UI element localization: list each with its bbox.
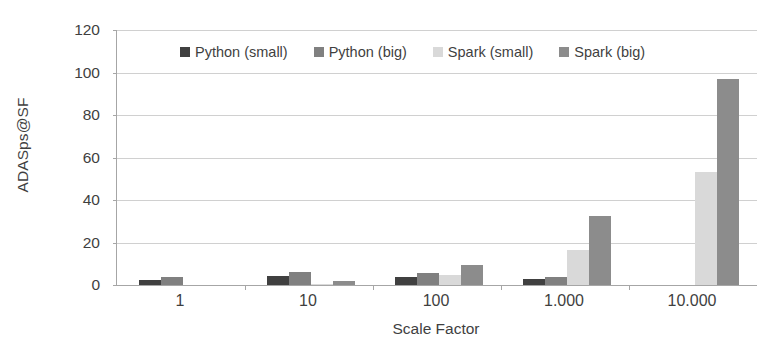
legend-swatch-icon: [559, 47, 569, 57]
y-axis-tick-label: 120: [74, 21, 100, 39]
y-axis-tick-mark: [113, 73, 117, 74]
x-axis-tick-mark: [373, 285, 374, 290]
y-axis-tick-labels: 020406080100120: [46, 22, 108, 290]
bar: [461, 265, 483, 285]
bar: [289, 272, 311, 285]
x-axis-tick-label: 1.000: [544, 292, 584, 310]
y-axis-tick-mark: [113, 285, 117, 286]
bar: [311, 284, 333, 285]
legend-item[interactable]: Python (small): [180, 44, 288, 60]
bar: [333, 281, 355, 285]
y-axis-tick-label: 80: [83, 106, 100, 124]
bar: [523, 279, 545, 285]
x-axis-tick-labels: 1101001.00010.000: [116, 292, 756, 316]
bar: [545, 277, 567, 286]
bar: [161, 277, 183, 286]
bar-group: [501, 30, 629, 285]
y-axis-tick-mark: [113, 30, 117, 31]
y-axis-title-label: ADASps@SF: [14, 97, 32, 192]
x-axis-tick-label: 10: [299, 292, 317, 310]
bar: [139, 280, 161, 285]
legend-item[interactable]: Spark (big): [559, 44, 645, 60]
bar: [395, 277, 417, 286]
bar: [267, 276, 289, 285]
bar-group: [629, 30, 757, 285]
x-axis-tick-label: 100: [423, 292, 450, 310]
bar-group: [245, 30, 373, 285]
bar: [567, 250, 589, 285]
x-axis-tick-mark: [245, 285, 246, 290]
bar-group: [117, 30, 245, 285]
y-axis-title: ADASps@SF: [0, 0, 46, 290]
x-axis-tick-mark: [629, 285, 630, 290]
y-axis-tick-label: 40: [83, 191, 100, 209]
legend-swatch-icon: [433, 47, 443, 57]
y-axis-tick-label: 20: [83, 234, 100, 252]
x-axis-tick-mark: [501, 285, 502, 290]
legend-item[interactable]: Spark (small): [433, 44, 533, 60]
bars-layer: [117, 30, 757, 285]
y-axis-tick-label: 0: [91, 276, 100, 294]
y-axis-tick-mark: [113, 200, 117, 201]
x-axis-tick-label: 1: [176, 292, 185, 310]
x-axis-title: Scale Factor: [116, 320, 756, 338]
bar: [717, 79, 739, 285]
bar: [589, 216, 611, 285]
chart-legend: Python (small)Python (big)Spark (small)S…: [180, 44, 645, 60]
y-axis-tick-mark: [113, 243, 117, 244]
bar: [439, 275, 461, 285]
bar: [695, 172, 717, 285]
y-axis-tick-label: 60: [83, 149, 100, 167]
legend-label: Spark (big): [574, 44, 645, 60]
legend-swatch-icon: [180, 47, 190, 57]
bar: [417, 273, 439, 285]
y-axis-tick-mark: [113, 115, 117, 116]
bar-chart: ADASps@SF 020406080100120 Python (small)…: [0, 0, 769, 354]
plot-area: [116, 30, 757, 286]
y-axis-tick-mark: [113, 158, 117, 159]
legend-swatch-icon: [314, 47, 324, 57]
legend-label: Python (big): [329, 44, 407, 60]
bar-group: [373, 30, 501, 285]
legend-item[interactable]: Python (big): [314, 44, 407, 60]
x-axis-tick-label: 10.000: [668, 292, 717, 310]
y-axis-tick-label: 100: [74, 64, 100, 82]
legend-label: Python (small): [195, 44, 288, 60]
legend-label: Spark (small): [448, 44, 533, 60]
